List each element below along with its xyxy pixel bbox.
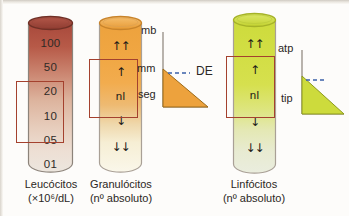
triangle1-axis-label-seg: seg — [138, 88, 156, 100]
normal-range-box-lymphocytes[interactable] — [226, 56, 275, 118]
figure-root: 100 50 20 10 05 01 Leucócitos (×10⁶/dL) — [0, 0, 349, 216]
normal-range-box-granulocytes[interactable] — [89, 59, 138, 118]
triangle2-axis-label-tip: tip — [281, 92, 293, 104]
triangle1-axis-label-mb: mb — [141, 24, 156, 36]
caption-granulocytes: Granulócitos (nº absoluto) — [66, 177, 176, 205]
scan-edge-top — [0, 0, 349, 4]
caption-granulocytes-line2: (nº absoluto) — [66, 191, 176, 205]
caption-lymphocytes-line2: (nº absoluto) — [199, 191, 309, 205]
caption-lymphocytes-line1: Linfócitos — [199, 177, 309, 191]
caption-lymphocytes: Linfócitos (nº absoluto) — [199, 177, 309, 205]
triangle2-axis-label-atp: atp — [278, 42, 293, 54]
caption-granulocytes-line1: Granulócitos — [66, 177, 176, 191]
triangle-lymphocyte-maturation: atp tip — [299, 48, 347, 120]
triangle1-axis-label-mm: mm — [137, 62, 155, 74]
normal-range-box-leukocytes[interactable] — [16, 81, 64, 143]
triangle1-annotation-de: DE — [196, 64, 213, 78]
triangle-granulocyte-maturation: mb mm seg DE — [160, 30, 212, 114]
